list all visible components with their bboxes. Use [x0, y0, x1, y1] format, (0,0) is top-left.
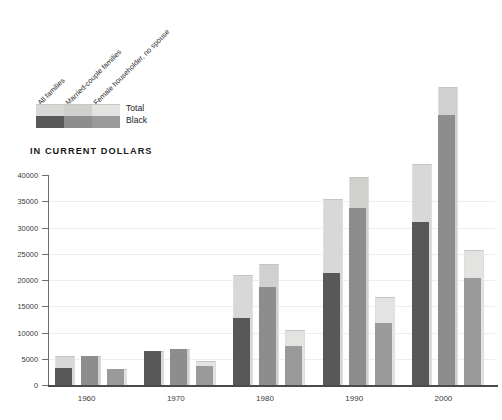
- bar-black: [349, 208, 366, 385]
- bar-black: [412, 222, 429, 385]
- x-axis-tick-label: 1970: [167, 394, 185, 403]
- x-axis-tick-label: 1990: [345, 394, 363, 403]
- y-axis-line: [48, 175, 49, 387]
- y-axis-tick-label: 0: [2, 381, 38, 390]
- bar-black: [81, 356, 98, 386]
- y-axis-tick-label: 10000: [2, 328, 38, 337]
- bar-black: [55, 368, 72, 385]
- bar-black: [323, 273, 340, 385]
- bar-black: [233, 318, 250, 385]
- bar-black: [259, 287, 276, 385]
- bar-black: [375, 323, 392, 385]
- y-axis-tick-label: 20000: [2, 276, 38, 285]
- x-axis-tick-label: 1960: [78, 394, 96, 403]
- bar-black: [170, 349, 187, 385]
- x-axis-line: [48, 385, 498, 387]
- bar-black: [196, 366, 213, 385]
- y-axis-tick-label: 40000: [2, 171, 38, 180]
- bar-black: [285, 346, 302, 385]
- y-axis-tick-label: 5000: [2, 354, 38, 363]
- x-axis-tick-label: 2000: [434, 394, 452, 403]
- bar-black: [144, 351, 161, 385]
- x-axis-tick-label: 1980: [256, 394, 274, 403]
- y-axis-tick-label: 15000: [2, 302, 38, 311]
- y-axis-tick-label: 30000: [2, 223, 38, 232]
- bar-chart-plot: 0500010000150002000025000300003500040000…: [0, 0, 502, 420]
- y-axis-tick-label: 25000: [2, 249, 38, 258]
- bar-black: [107, 369, 124, 385]
- bar-black: [438, 115, 455, 385]
- y-axis-tick-label: 35000: [2, 197, 38, 206]
- bar-black: [464, 278, 481, 385]
